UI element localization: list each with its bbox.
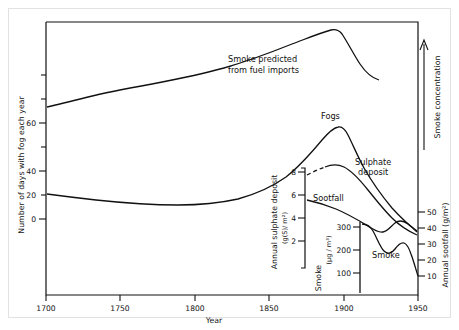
smoke-tick-300: 300 — [337, 223, 352, 232]
x-axis-ticks — [46, 295, 418, 301]
series-fogs — [47, 127, 417, 231]
fog-tick-60: 60 — [26, 119, 36, 128]
fog-axis-label: Number of days with fog each year — [17, 96, 26, 234]
smoke-concentration-axis-line — [420, 40, 428, 150]
sulphate-axis-units: (g(S)/ m²) — [281, 212, 289, 244]
series-smoke-predicted — [47, 30, 379, 107]
x-tick-1850: 1850 — [259, 304, 278, 313]
sootfall-tick-20: 20 — [427, 256, 437, 265]
sulphate-tick-6: 6 — [291, 191, 296, 200]
annotation-smoke-predicted-line1: Smoke predicted — [228, 54, 297, 64]
sootfall-tick-50: 50 — [427, 208, 437, 217]
annotation-sulphate-deposit: Sulphate deposit — [355, 157, 391, 177]
x-tick-1950: 1950 — [408, 304, 427, 313]
sootfall-axis-label: Annual sootfall (g/m²) — [441, 203, 450, 288]
x-tick-1800: 1800 — [185, 304, 204, 313]
sulphate-axis-ticks — [298, 172, 305, 241]
annotation-smoke: Smoke — [372, 250, 400, 260]
smoke-concentration-axis-label: Smoke concentration — [433, 56, 442, 139]
fog-axis-ticks — [39, 75, 46, 219]
sootfall-tick-30: 30 — [427, 240, 437, 249]
series-sulphate-deposit-dashed — [307, 167, 325, 175]
fog-axis-ticklabels: 60 40 20 0 — [26, 119, 36, 224]
annotation-sootfall: Sootfall — [313, 193, 344, 203]
sootfall-axis-ticklabels: 50 40 30 20 10 — [427, 208, 437, 281]
sulphate-axis-label: Annual sulphate deposit — [270, 175, 279, 270]
x-axis-ticklabels: 1700 1750 1800 1850 1900 1950 — [36, 304, 427, 313]
smoke-tick-100: 100 — [337, 269, 352, 278]
fog-tick-0: 0 — [31, 215, 36, 224]
annotation-sulphate-line2: deposit — [358, 167, 389, 177]
chart-svg: 1700 1750 1800 1850 1900 1950 Year 60 40… — [0, 0, 459, 330]
sulphate-tick-2: 2 — [291, 237, 296, 246]
sulphate-tick-4: 4 — [291, 214, 296, 223]
smoke-axis-ticks — [353, 227, 360, 273]
smoke-axis-ticklabels: 300 200 100 — [337, 223, 352, 278]
annotation-smoke-predicted-line2: from fuel imports — [228, 65, 299, 75]
annotation-sulphate-line1: Sulphate — [355, 157, 391, 167]
x-tick-1900: 1900 — [334, 304, 353, 313]
x-axis-label: Year — [205, 316, 223, 325]
annotation-fogs: Fogs — [321, 111, 340, 121]
fog-tick-20: 20 — [26, 191, 36, 200]
smoke-axis-units: (µg / m³) — [325, 235, 333, 264]
sootfall-axis-ticks — [418, 212, 425, 276]
sulphate-axis-ticklabels: 8 6 4 2 — [291, 168, 296, 246]
chart-figure: 1700 1750 1800 1850 1900 1950 Year 60 40… — [0, 0, 459, 330]
x-tick-1700: 1700 — [36, 304, 55, 313]
smoke-tick-200: 200 — [337, 246, 352, 255]
smoke-axis-label: Smoke — [314, 265, 323, 292]
annotation-smoke-predicted: Smoke predicted from fuel imports — [228, 54, 299, 75]
x-tick-1750: 1750 — [110, 304, 129, 313]
sootfall-tick-40: 40 — [427, 224, 437, 233]
sootfall-tick-10: 10 — [427, 272, 437, 281]
fog-tick-40: 40 — [26, 167, 36, 176]
